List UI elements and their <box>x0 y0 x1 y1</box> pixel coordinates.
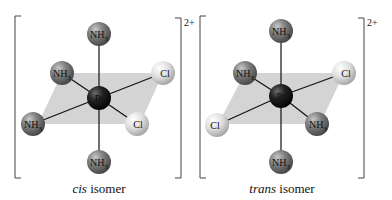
right-bracket <box>175 18 181 178</box>
ligand-nh3-back-left: NH3 <box>233 61 257 85</box>
ligand-nh3-front-right: NH3 <box>305 112 329 136</box>
central-atom-pt: Pt <box>87 86 111 110</box>
central-atom-pt: Pt <box>269 84 293 108</box>
ligand-nh3-front-left: NH3 <box>21 112 45 136</box>
svg-text:Cl: Cl <box>133 119 143 130</box>
ligand-nh3-axial-top: NH3 <box>269 19 293 43</box>
cis-complex: 2+ NH3 NH3 Cl Pt <box>15 16 195 196</box>
ligand-nh3-back-left: NH3 <box>50 61 74 85</box>
ligand-cl-back-right: Cl <box>332 61 356 85</box>
octahedral-isomers-diagram: 2+ NH3 NH3 Cl Pt <box>0 0 392 200</box>
svg-text:Pt: Pt <box>95 93 104 104</box>
svg-text:Cl: Cl <box>160 68 170 79</box>
caption-cis: cis isomer <box>72 181 126 196</box>
ligand-cl-front-left: Cl <box>205 113 229 137</box>
svg-text:Cl: Cl <box>210 120 220 131</box>
charge-label: 2+ <box>367 17 378 28</box>
ligand-cl-front-right: Cl <box>125 112 149 136</box>
svg-text:Cl: Cl <box>341 68 351 79</box>
ligand-cl-back-right: Cl <box>151 61 175 85</box>
left-bracket <box>15 16 21 178</box>
ligand-nh3-axial-bottom: NH3 <box>269 150 293 174</box>
svg-text:Pt: Pt <box>277 91 286 102</box>
ligand-nh3-axial-bottom: NH3 <box>87 150 111 174</box>
caption-trans: trans isomer <box>249 181 315 196</box>
ligand-nh3-axial-top: NH3 <box>87 22 111 46</box>
trans-complex: 2+ NH3 NH3 Cl Pt Cl <box>200 16 378 196</box>
right-bracket <box>358 18 364 178</box>
charge-label: 2+ <box>184 17 195 28</box>
left-bracket <box>200 16 206 178</box>
